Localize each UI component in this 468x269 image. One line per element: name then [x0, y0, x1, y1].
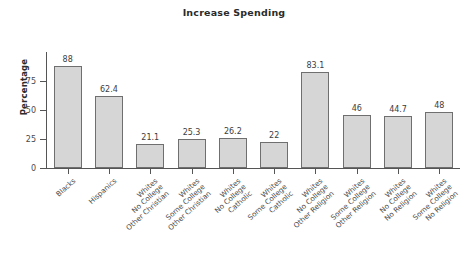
- bar-value-label: 48: [409, 101, 468, 110]
- x-axis-tick: [398, 169, 399, 174]
- bar-group[interactable]: 48: [425, 52, 453, 168]
- bar-value-label: 22: [244, 131, 304, 140]
- bar[interactable]: [425, 112, 453, 168]
- x-axis-tick: [150, 169, 151, 174]
- bar-value-label: 88: [38, 55, 98, 64]
- bar-group[interactable]: 88: [54, 52, 82, 168]
- bar-group[interactable]: 21.1: [136, 52, 164, 168]
- bar[interactable]: [301, 72, 329, 168]
- y-axis-tick-label: 75: [26, 77, 36, 86]
- bar[interactable]: [95, 96, 123, 168]
- bar-chart: Increase Spending Percentage 0255075 886…: [0, 0, 468, 269]
- bar-value-label: 62.4: [79, 85, 139, 94]
- bar[interactable]: [343, 115, 371, 168]
- bar-value-label: 83.1: [285, 61, 345, 70]
- bar-group[interactable]: 83.1: [301, 52, 329, 168]
- y-axis-tick-label: 0: [31, 164, 36, 173]
- y-axis-tick: [40, 110, 46, 111]
- bar-group[interactable]: 62.4: [95, 52, 123, 168]
- bar-group[interactable]: 22: [260, 52, 288, 168]
- bar[interactable]: [219, 138, 247, 168]
- bar-group[interactable]: 46: [343, 52, 371, 168]
- y-axis-tick-label: 25: [26, 135, 36, 144]
- y-axis-tick: [40, 139, 46, 140]
- x-axis-tick: [439, 169, 440, 174]
- y-axis-tick-label: 50: [26, 106, 36, 115]
- bar-group[interactable]: 44.7: [384, 52, 412, 168]
- plot-area: 8862.421.125.326.22283.14644.748: [47, 52, 460, 168]
- chart-title: Increase Spending: [0, 7, 468, 18]
- bar-group[interactable]: 25.3: [178, 52, 206, 168]
- x-axis-tick: [109, 169, 110, 174]
- bar[interactable]: [54, 66, 82, 168]
- x-axis-tick: [68, 169, 69, 174]
- y-axis-tick: [40, 168, 46, 169]
- y-axis-tick: [40, 81, 46, 82]
- bar[interactable]: [260, 142, 288, 168]
- bar-group[interactable]: 26.2: [219, 52, 247, 168]
- x-axis-tick: [274, 169, 275, 174]
- x-axis-tick: [315, 169, 316, 174]
- bar[interactable]: [178, 139, 206, 168]
- x-axis-tick: [357, 169, 358, 174]
- bar[interactable]: [384, 116, 412, 168]
- bar[interactable]: [136, 144, 164, 168]
- x-axis-tick: [192, 169, 193, 174]
- x-axis-tick: [233, 169, 234, 174]
